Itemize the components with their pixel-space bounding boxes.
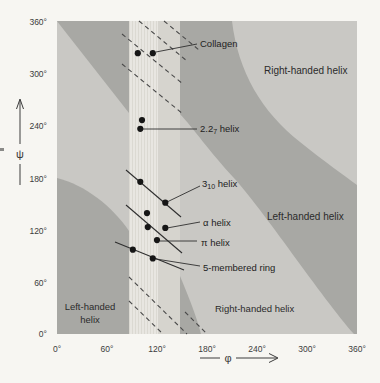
data-point-ring5: [150, 255, 156, 261]
plot-canvas: Collagen 2.27 helix 310 helix α helix π …: [0, 0, 380, 383]
region-label-right-handed-bottom: Right-handed helix: [215, 303, 294, 314]
label-collagen: Collagen: [200, 38, 238, 49]
data-point-collagen: [135, 50, 141, 56]
y-tick-120: 120°: [29, 226, 47, 236]
region-label-left-handed-bottom-2: helix: [80, 314, 100, 325]
label-310-rest: helix: [215, 178, 237, 189]
data-point-alpha: [144, 210, 150, 216]
label-227-helix: 2.27 helix: [200, 123, 240, 135]
data-point-collagen: [150, 50, 156, 56]
y-tick-360: 360°: [29, 17, 47, 27]
x-tick-180: 180°: [198, 344, 216, 354]
figure-ramachandran-plot: Collagen 2.27 helix 310 helix α helix π …: [0, 0, 380, 383]
y-tick-300: 300°: [29, 69, 47, 79]
phi-axis-symbol: φ: [224, 352, 231, 364]
region-label-left-handed-right: Left-handed helix: [267, 211, 344, 222]
data-point-alpha: [162, 225, 168, 231]
data-point-ring5: [130, 247, 136, 253]
x-tick-360: 360°: [348, 344, 366, 354]
label-227-rest: helix: [217, 123, 239, 134]
data-point-helix227: [137, 126, 143, 132]
x-tick-60: 60°: [101, 344, 114, 354]
region-label-right-handed-top: Right-handed helix: [264, 65, 347, 76]
allowed-strip-hatched: [129, 21, 158, 334]
y-tick-60: 60°: [34, 278, 47, 288]
allowed-strip-outer: [158, 21, 180, 334]
label-alpha-helix: α helix: [203, 217, 231, 228]
x-tick-120: 120°: [148, 344, 166, 354]
label-227-base: 2.2: [200, 123, 213, 134]
psi-axis-symbol: ψ: [16, 148, 24, 160]
y-tick-0: 0°: [39, 329, 47, 339]
label-5-membered-ring: 5-membered ring: [203, 262, 275, 273]
scan-artifact: [0, 148, 4, 151]
data-point-helix310: [137, 179, 143, 185]
label-310-subscript: 10: [207, 183, 215, 190]
x-tick-0: 0°: [53, 344, 61, 354]
data-point-helix310: [162, 200, 168, 206]
y-tick-240: 240°: [29, 121, 47, 131]
label-pi-helix: π helix: [201, 237, 230, 248]
region-label-left-handed-bottom-1: Left-handed: [65, 301, 116, 312]
data-point-alpha: [145, 224, 151, 230]
data-point-pi: [154, 237, 160, 243]
data-point-helix227: [139, 117, 145, 123]
allowed-strip-layer: [129, 21, 180, 334]
x-tick-300: 300°: [298, 344, 316, 354]
y-tick-180: 180°: [29, 174, 47, 184]
x-tick-240: 240°: [248, 344, 266, 354]
